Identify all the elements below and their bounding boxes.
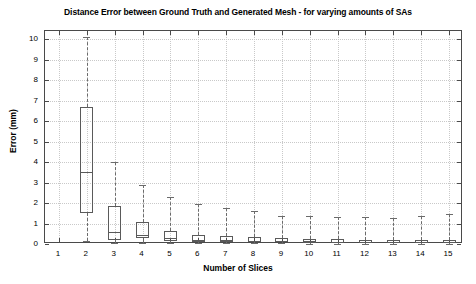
x-tick-label: 1	[43, 249, 73, 258]
chart-figure: Distance Error between Ground Truth and …	[0, 0, 476, 284]
y-axis-tick-labels: 012345678910	[0, 0, 476, 284]
y-tick-label: 10	[8, 34, 38, 43]
y-tick-label: 2	[8, 198, 38, 207]
x-tick-label: 14	[405, 249, 435, 258]
x-tick-label: 13	[377, 249, 407, 258]
x-tick-label: 10	[294, 249, 324, 258]
x-tick-label: 15	[433, 249, 463, 258]
x-tick-label: 7	[210, 249, 240, 258]
y-axis-title: Error (mm)	[8, 71, 18, 191]
y-tick-label: 9	[8, 54, 38, 63]
x-tick-label: 5	[154, 249, 184, 258]
x-tick-label: 6	[182, 249, 212, 258]
y-tick-label: 0	[8, 239, 38, 248]
y-tick-label: 1	[8, 218, 38, 227]
x-tick-label: 3	[99, 249, 129, 258]
x-axis-title: Number of Slices	[0, 263, 476, 273]
x-tick-label: 9	[266, 249, 296, 258]
x-tick-label: 8	[238, 249, 268, 258]
x-tick-label: 12	[349, 249, 379, 258]
x-tick-label: 2	[71, 249, 101, 258]
x-tick-label: 11	[322, 249, 352, 258]
x-tick-label: 4	[127, 249, 157, 258]
